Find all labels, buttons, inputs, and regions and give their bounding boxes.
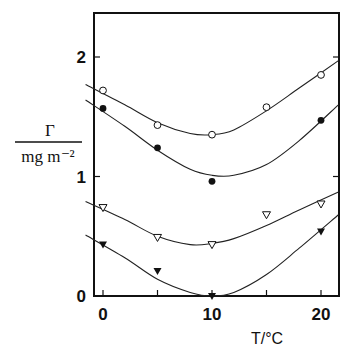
x-tick-label: 0 <box>98 305 107 324</box>
open-circle-marker <box>263 104 270 111</box>
plot-border <box>94 13 339 296</box>
y-tick-label: 1 <box>77 168 86 187</box>
plot-frame <box>94 13 339 296</box>
open-triangle-marker <box>208 242 216 249</box>
y-axis-label: Γ mg m⁻² <box>15 121 82 166</box>
data-points <box>99 72 325 300</box>
filled-circle-marker <box>318 117 325 124</box>
filled-triangle-marker <box>99 242 107 249</box>
open-triangle-marker <box>154 234 162 241</box>
open-triangle-marker <box>263 212 271 219</box>
y-tick-label: 0 <box>77 287 86 306</box>
open-circle-marker <box>100 87 107 94</box>
chart: 01020012 Γ mg m⁻² T/°C <box>0 0 349 356</box>
axis-ticks: 01020012 <box>77 48 339 324</box>
open-circle-marker <box>318 72 325 79</box>
open-circle-marker <box>209 131 216 138</box>
filled-circle-marker <box>209 178 216 185</box>
x-axis-label: T/°C <box>251 330 283 347</box>
x-tick-label: 10 <box>203 305 222 324</box>
fit-curve <box>86 215 339 296</box>
fit-curve <box>86 61 339 136</box>
x-tick-label: 20 <box>312 305 331 324</box>
filled-circle-marker <box>154 144 161 151</box>
open-circle-marker <box>154 122 161 129</box>
filled-triangle-marker <box>154 268 162 275</box>
fit-curve <box>86 192 339 245</box>
y-axis-label-denominator: mg m⁻² <box>21 147 74 166</box>
y-tick-label: 2 <box>77 48 86 67</box>
filled-circle-marker <box>100 105 107 112</box>
y-axis-label-numerator: Γ <box>45 121 55 140</box>
open-triangle-marker <box>317 201 325 208</box>
